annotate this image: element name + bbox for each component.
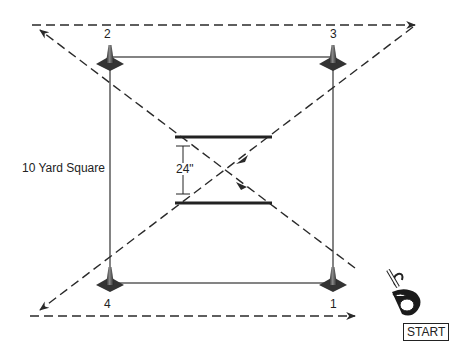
gate-width-label: 24" xyxy=(176,163,194,175)
cone-label-1: 1 xyxy=(330,298,337,310)
drill-diagram: 2 3 4 1 10 Yard Square 24" START xyxy=(0,0,449,363)
square-size-label: 10 Yard Square xyxy=(22,162,105,174)
arrow-icon xyxy=(236,182,247,190)
player-with-stick-icon xyxy=(385,268,421,316)
ten-yard-square xyxy=(110,57,333,283)
diagonal-path-1-to-2 xyxy=(40,30,355,268)
cone-4-icon xyxy=(96,267,124,292)
cone-1-icon xyxy=(319,267,347,292)
cone-label-3: 3 xyxy=(330,28,337,40)
gate-direction-arrows xyxy=(236,155,248,190)
cone-3-icon xyxy=(319,45,347,71)
cone-label-2: 2 xyxy=(104,28,111,40)
cone-label-4: 4 xyxy=(104,298,111,310)
cone-2-icon xyxy=(96,45,124,71)
start-label: START xyxy=(403,323,449,341)
diagram-canvas xyxy=(0,0,449,363)
